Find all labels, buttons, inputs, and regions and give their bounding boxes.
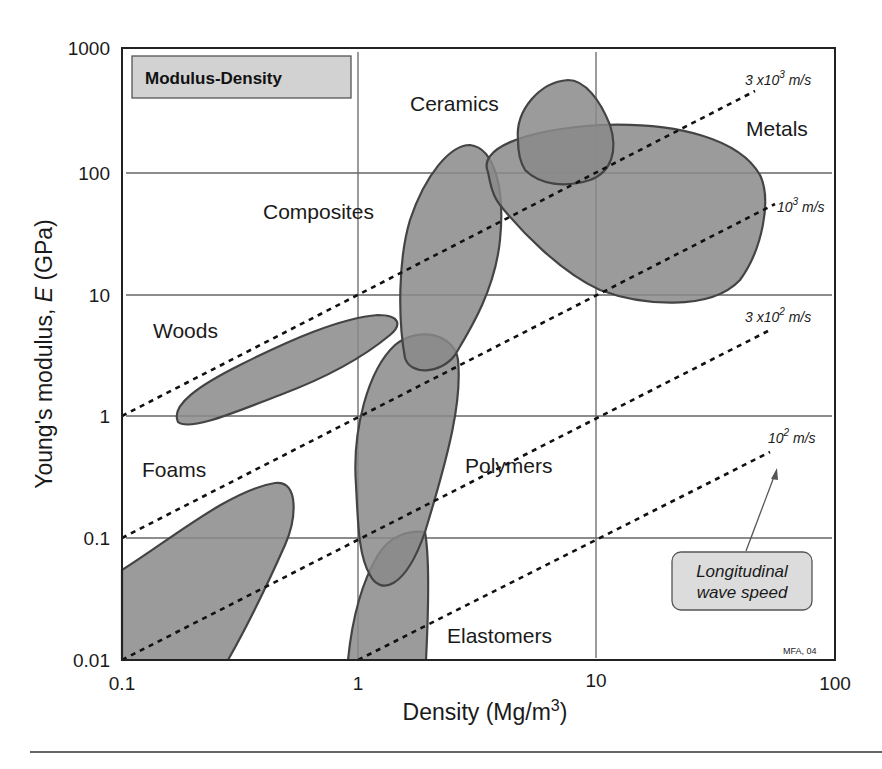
label-speed-3000: 3 x103 m/s — [745, 69, 811, 88]
label-metals: Metals — [746, 117, 808, 140]
x-axis-ticks: 0.1 1 10 100 — [109, 670, 851, 694]
y-axis-title: Young's modulus, E (GPa) — [31, 219, 57, 488]
note-line-1: Longitudinal — [696, 562, 789, 581]
note-line-2: wave speed — [697, 583, 788, 602]
svg-text:1000: 1000 — [68, 38, 110, 59]
label-speed-300: 3 x102 m/s — [745, 306, 811, 325]
label-elastomers: Elastomers — [447, 624, 552, 647]
chart-title-box: Modulus-Density — [132, 56, 351, 98]
svg-text:0.1: 0.1 — [109, 673, 135, 694]
svg-text:1: 1 — [353, 673, 364, 694]
label-speed-100: 102 m/s — [768, 427, 816, 446]
label-foams: Foams — [142, 458, 206, 481]
svg-text:1: 1 — [99, 406, 110, 427]
credit-label: MFA, 04 — [783, 646, 817, 656]
svg-text:10: 10 — [585, 670, 606, 691]
label-ceramics: Ceramics — [410, 92, 499, 115]
label-speed-1000: 103 m/s — [777, 196, 825, 215]
svg-text:100: 100 — [819, 673, 851, 694]
svg-text:0.1: 0.1 — [84, 528, 110, 549]
modulus-density-chart: Modulus-Density Ceramics Metals Composit… — [0, 0, 882, 769]
svg-text:100: 100 — [78, 163, 110, 184]
label-woods: Woods — [153, 319, 218, 342]
x-axis-title: Density (Mg/m3) — [403, 697, 568, 725]
label-polymers: Polymers — [465, 454, 553, 477]
y-axis-ticks: 1000 100 10 1 0.1 0.01 — [68, 38, 110, 671]
label-composites: Composites — [263, 200, 374, 223]
chart-title: Modulus-Density — [145, 69, 282, 88]
svg-text:10: 10 — [89, 285, 110, 306]
svg-text:0.01: 0.01 — [73, 650, 110, 671]
wave-speed-note: Longitudinal wave speed — [672, 552, 812, 610]
